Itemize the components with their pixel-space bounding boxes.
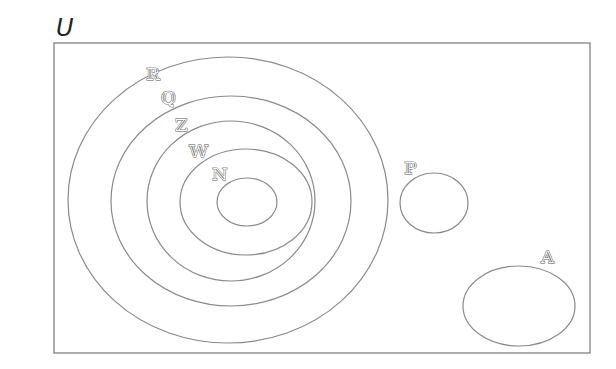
set-rational-numbers-label: ℚ xyxy=(161,88,176,108)
set-natural-numbers-ellipse xyxy=(217,178,277,226)
set-natural-numbers-label: ℕ xyxy=(212,164,228,184)
set-set-a-label: 𝔸 xyxy=(540,247,555,267)
set-whole-numbers: 𝕎 xyxy=(180,141,312,255)
set-whole-numbers-label: 𝕎 xyxy=(188,141,209,161)
set-integers-label: ℤ xyxy=(175,115,187,135)
set-real-numbers-ellipse xyxy=(68,57,388,343)
set-prime-set-ellipse xyxy=(400,173,468,233)
set-set-a: 𝔸 xyxy=(463,247,575,346)
set-whole-numbers-ellipse xyxy=(180,149,312,255)
set-prime-set: ℙ xyxy=(400,158,468,233)
sets-layer: ℝℚℤ𝕎ℕℙ𝔸 xyxy=(68,57,575,346)
set-set-a-ellipse xyxy=(463,266,575,346)
universe-rectangle xyxy=(54,43,590,353)
set-integers-ellipse xyxy=(147,121,315,281)
set-natural-numbers: ℕ xyxy=(212,164,277,226)
venn-diagram: U ℝℚℤ𝕎ℕℙ𝔸 xyxy=(0,0,616,369)
set-integers: ℤ xyxy=(147,115,315,281)
universe-label: U xyxy=(56,14,74,42)
set-prime-set-label: ℙ xyxy=(404,158,417,178)
set-real-numbers-label: ℝ xyxy=(146,64,161,84)
set-real-numbers: ℝ xyxy=(68,57,388,343)
